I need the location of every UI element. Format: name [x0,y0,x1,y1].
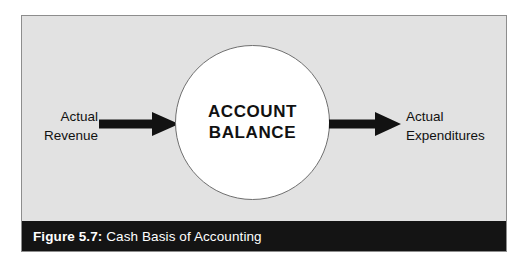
outflow-label: Actual Expenditures [406,108,502,145]
inflow-arrow-right-icon [99,111,179,137]
figure-number: Figure 5.7: [33,229,102,244]
figure-title: Cash Basis of Accounting [102,229,261,244]
inflow-label: Actual Revenue [36,108,98,145]
account-balance-node: ACCOUNT BALANCE [175,45,330,200]
diagram-canvas: Actual Revenue ACCOUNT BALANCE Actual Ex… [22,16,506,222]
outflow-arrow-right-icon [329,111,401,137]
account-balance-node-label: ACCOUNT BALANCE [208,102,297,143]
figure-caption-bar: Figure 5.7: Cash Basis of Accounting [22,221,506,251]
figure-frame: Actual Revenue ACCOUNT BALANCE Actual Ex… [21,15,507,252]
figure-root: Actual Revenue ACCOUNT BALANCE Actual Ex… [0,0,523,270]
figure-caption-text: Figure 5.7: Cash Basis of Accounting [33,229,262,244]
